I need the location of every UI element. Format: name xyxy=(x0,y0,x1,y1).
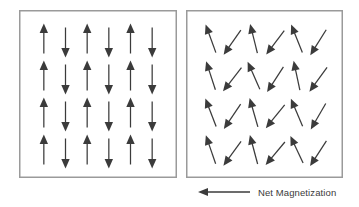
net-magnetization-legend: Net Magnetization xyxy=(196,182,356,202)
canted-panel-canvas xyxy=(186,10,343,178)
canted-spin-panel xyxy=(186,10,343,178)
magnetization-figure: Net Magnetization xyxy=(0,0,359,207)
ordered-panel-canvas xyxy=(19,10,177,178)
antiferromagnetic-ordered-panel xyxy=(19,10,177,178)
net-magnetization-label: Net Magnetization xyxy=(258,187,336,198)
left-arrow-icon xyxy=(196,184,252,200)
